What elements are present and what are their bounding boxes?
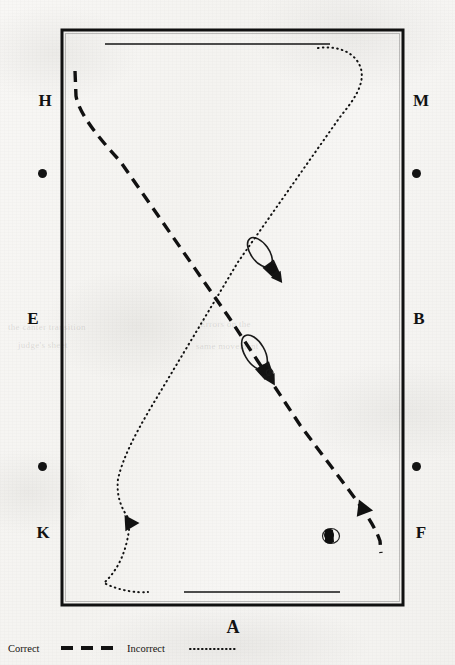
rider-figure-upper bbox=[243, 233, 290, 288]
incorrect-path bbox=[104, 47, 362, 592]
arena-marker-f: F bbox=[412, 524, 430, 541]
arena-marker-h: H bbox=[36, 92, 54, 109]
arena-marker-k: K bbox=[34, 524, 52, 541]
arena-marker-a: A bbox=[223, 618, 243, 636]
arena-marker-dot-right-upper bbox=[412, 169, 421, 178]
rider-figure-head-on bbox=[323, 529, 340, 544]
legend-incorrect-label: Incorrect bbox=[127, 644, 165, 655]
arena-marker-dot-left-lower bbox=[38, 462, 47, 471]
arena-marker-e: E bbox=[24, 310, 42, 327]
arena-diagram bbox=[0, 0, 455, 665]
arena-boundary bbox=[62, 30, 403, 605]
arena-boundary-inner-hairline bbox=[66, 34, 400, 602]
correct-path bbox=[75, 71, 381, 553]
arena-marker-dot-left-upper bbox=[38, 169, 47, 178]
arena-marker-m: M bbox=[411, 92, 431, 109]
legend-correct-label: Correct bbox=[8, 644, 40, 655]
arena-marker-b: B bbox=[410, 310, 428, 327]
arrowhead-incorrect-lower-left bbox=[118, 515, 140, 535]
arena-marker-dot-right-lower bbox=[412, 462, 421, 471]
